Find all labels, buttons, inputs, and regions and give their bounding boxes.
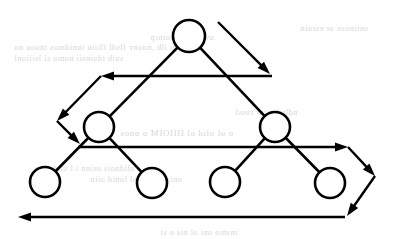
tree-node-root xyxy=(173,20,205,52)
tree-edge-right-leaf3 xyxy=(234,137,265,171)
tree-traversal-svg xyxy=(0,0,402,239)
tree-node-leaf-3 xyxy=(210,167,240,197)
traversal-arrow-root-to-level1-line xyxy=(218,22,263,67)
traversal-arrow-wrap-down-right-line xyxy=(57,121,73,137)
traversal-arrow-bottom-right-to-left-head xyxy=(18,213,31,222)
traversal-arrow-wrap-down-left-2-head xyxy=(347,203,358,216)
tree-node-left-internal xyxy=(84,112,114,142)
tree-edge-left-leaf2 xyxy=(109,137,143,173)
tree-edge-root-left xyxy=(109,47,179,117)
tree-node-leaf-1 xyxy=(30,167,60,197)
traversal-arrow-wrap-down-left-line xyxy=(64,76,101,114)
tree-node-right-internal xyxy=(260,112,290,142)
tree-node-leaf-4 xyxy=(315,168,345,198)
tree-edge-root-right xyxy=(199,47,265,117)
tree-edges-group xyxy=(55,47,320,173)
tree-traversal-figure: sntinoos or esroinuv s snioi notnrpsinsi… xyxy=(0,0,402,239)
tree-node-leaf-2 xyxy=(137,168,167,198)
tree-edge-right-leaf4 xyxy=(285,137,320,173)
tree-edge-left-leaf1 xyxy=(55,137,89,172)
tree-nodes-group xyxy=(30,20,345,198)
traversal-arrow-wrap-down-left-2-line xyxy=(353,176,375,208)
traversal-arrow-level2-left-to-right-head xyxy=(335,143,348,152)
traversal-arrow-level1-right-to-left-head xyxy=(101,72,114,81)
traversal-arrow-wrap-down-right-2-line xyxy=(348,147,368,169)
